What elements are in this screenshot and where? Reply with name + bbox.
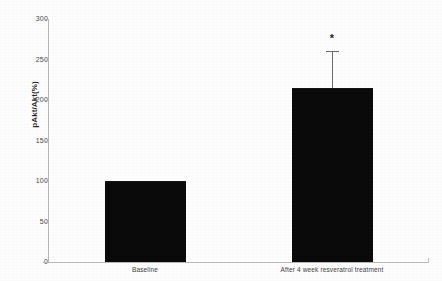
y-tick-mark: [43, 222, 48, 223]
significance-marker: *: [320, 33, 344, 44]
y-tick-150: 150: [0, 137, 48, 145]
y-tick-label: 200: [8, 96, 48, 104]
y-tick-label: 0: [8, 258, 48, 266]
y-tick-100: 100: [0, 177, 48, 185]
y-tick-0: 0: [0, 258, 48, 266]
y-tick-300: 300: [0, 15, 48, 23]
y-tick-250: 250: [0, 56, 48, 64]
y-tick-mark: [43, 60, 48, 61]
y-tick-mark: [43, 100, 48, 101]
y-axis-line: [48, 19, 49, 263]
y-tick-label: 250: [8, 56, 48, 64]
y-tick-200: 200: [0, 96, 48, 104]
y-tick-mark: [43, 19, 48, 20]
bar-baseline: [105, 181, 186, 262]
plot-area: pAkt/Akt(%) 300250200150100500 * Baselin…: [0, 0, 442, 281]
bar-after-treatment: [292, 88, 373, 262]
y-tick-label: 150: [8, 137, 48, 145]
y-axis-title: pAkt/Akt(%): [30, 65, 39, 145]
y-tick-label: 50: [8, 218, 48, 226]
x-axis-end-tick: [428, 258, 429, 263]
y-tick-mark: [43, 181, 48, 182]
y-tick-mark: [43, 262, 48, 263]
category-label-baseline: Baseline: [85, 265, 205, 274]
y-tick-label: 100: [8, 177, 48, 185]
x-axis-line: [48, 262, 428, 263]
error-bar-cap: [326, 51, 339, 52]
y-tick-mark: [43, 141, 48, 142]
category-label-after-treatment: After 4 week resveratrol treatment: [257, 265, 407, 274]
error-bar: [332, 51, 333, 87]
chart-figure: pAkt/Akt(%) 300250200150100500 * Baselin…: [0, 0, 442, 281]
y-tick-50: 50: [0, 218, 48, 226]
y-tick-label: 300: [8, 15, 48, 23]
scan-grain-overlay: [0, 0, 442, 281]
